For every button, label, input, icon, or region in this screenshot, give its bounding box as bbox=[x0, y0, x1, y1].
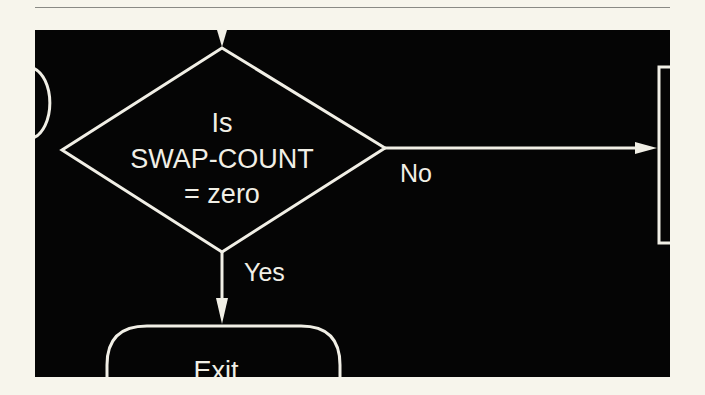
decision-line-3: = zero bbox=[184, 179, 260, 209]
no-label: No bbox=[400, 159, 432, 187]
flowchart-canvas: Is SWAP-COUNT = zero No Yes Exit bbox=[35, 30, 670, 377]
no-branch-arrow bbox=[385, 142, 657, 154]
left-connector-shape bbox=[35, 68, 50, 138]
decision-line-1: Is bbox=[211, 108, 232, 138]
top-rule bbox=[35, 7, 670, 8]
incoming-arrow bbox=[217, 30, 227, 47]
exit-label: Exit bbox=[193, 356, 239, 377]
yes-label: Yes bbox=[244, 258, 285, 286]
decision-line-2: SWAP-COUNT bbox=[130, 144, 314, 174]
process-box bbox=[659, 67, 670, 243]
flowchart-panel: Is SWAP-COUNT = zero No Yes Exit bbox=[35, 30, 670, 377]
yes-branch-arrow bbox=[216, 252, 228, 324]
